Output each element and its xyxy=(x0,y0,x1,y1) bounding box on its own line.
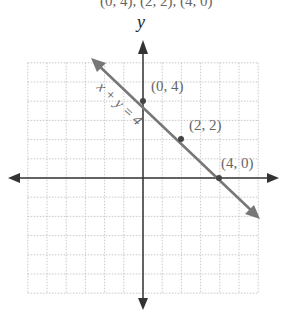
header-partial-text: (0, 4), (2, 2), (4, 0) xyxy=(100,0,212,10)
x-axis-right-arrow-icon xyxy=(267,173,279,183)
x-axis-left-arrow-icon xyxy=(8,173,20,183)
y-axis-up-arrow-icon xyxy=(138,40,148,54)
point-label-0-4: (0, 4) xyxy=(151,78,184,95)
y-axis-down-arrow-icon xyxy=(138,298,148,310)
y-axis-label: y xyxy=(135,12,145,32)
point-0-4 xyxy=(140,98,146,104)
point-4-0 xyxy=(216,175,222,181)
point-2-2 xyxy=(178,136,184,142)
coordinate-graph: (0, 4), (2, 2), (4, 0) y (0, 4) (2, 2) (… xyxy=(0,0,287,313)
point-label-4-0: (4, 0) xyxy=(221,155,254,172)
point-label-2-2: (2, 2) xyxy=(189,117,222,134)
